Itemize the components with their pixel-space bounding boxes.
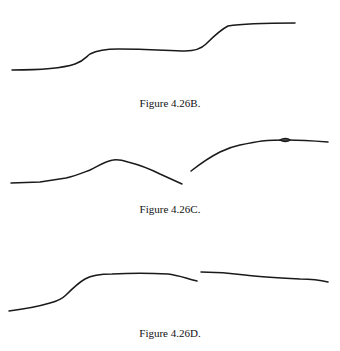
figure-d-caption: Figure 4.26D. [0, 327, 340, 339]
curve-figure-d-right [201, 272, 328, 282]
curve-figure-c-left [11, 160, 182, 184]
figure-c-caption: Figure 4.26C. [0, 203, 340, 215]
curve-drawings [0, 0, 340, 351]
curve-figure-d-left [9, 273, 197, 311]
curve-figure-b [12, 23, 295, 70]
curve-figure-c-right [191, 140, 328, 171]
figure-b-caption: Figure 4.26B. [0, 97, 340, 109]
